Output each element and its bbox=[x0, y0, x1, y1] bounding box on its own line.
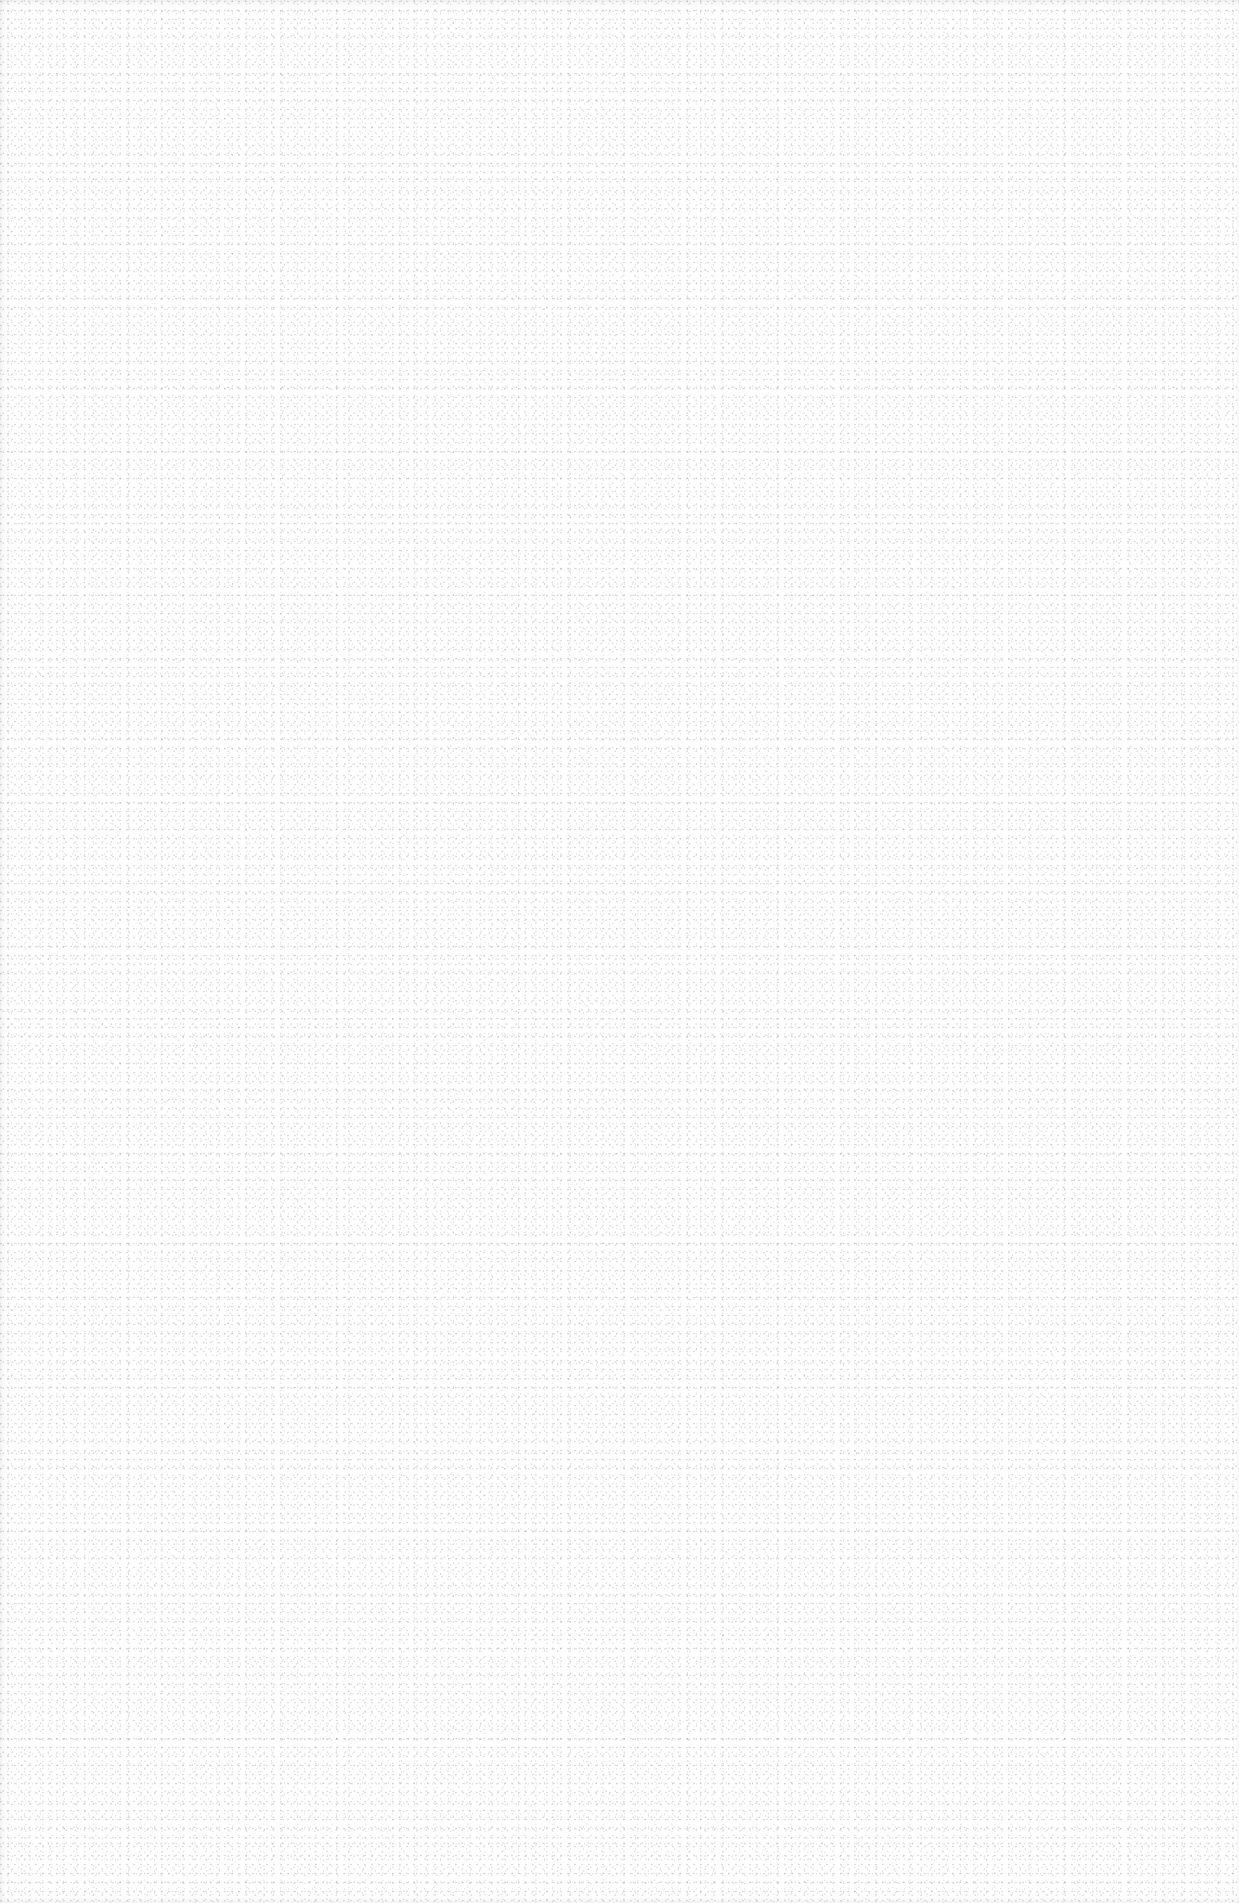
page-content bbox=[0, 0, 1239, 1903]
blank-page bbox=[0, 0, 1239, 1903]
